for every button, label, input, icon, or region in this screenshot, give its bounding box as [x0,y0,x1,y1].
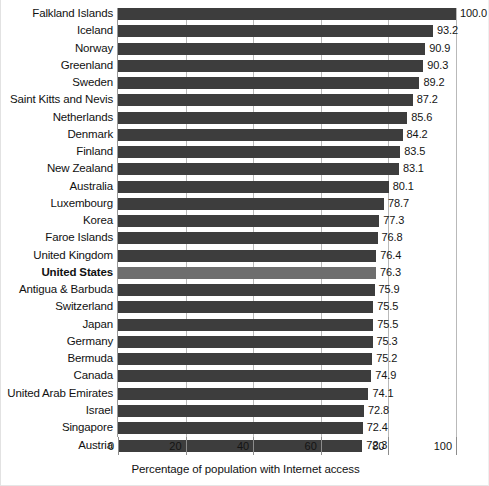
category-label: United Arab Emirates [1,387,113,400]
bar[interactable] [118,94,413,106]
bar[interactable] [118,198,384,210]
bar-value-label: 75.9 [379,282,400,297]
bar[interactable] [118,405,364,417]
bar[interactable] [118,77,419,89]
bar[interactable] [118,129,403,141]
axis-tick-label: 60 [277,440,317,453]
bar-row: 76.8 [118,232,456,244]
bar-row: 89.2 [118,77,456,89]
bar-row: 77.3 [118,215,456,227]
bar-value-label: 75.2 [376,351,397,366]
bar-value-label: 74.1 [372,386,393,401]
bar-value-label: 77.3 [383,213,404,228]
bar-row: 74.1 [118,388,456,400]
bar[interactable] [118,112,407,124]
bar-row: 76.3 [118,267,456,279]
bar-highlighted[interactable] [118,267,376,279]
category-label: Falkland Islands [1,7,113,20]
bar-value-label: 80.1 [393,179,414,194]
bar[interactable] [118,250,376,262]
bar[interactable] [118,163,399,175]
category-label: Germany [1,335,113,348]
axis-tick [456,437,457,455]
category-label: Bermuda [1,352,113,365]
axis-tick [388,437,389,455]
bar-row: 84.2 [118,129,456,141]
bar-value-label: 83.5 [404,144,425,159]
bar-value-label: 78.7 [388,196,409,211]
bar[interactable] [118,422,363,434]
bar-row: 76.4 [118,250,456,262]
bar-row: 75.3 [118,336,456,348]
category-axis-labels: Falkland IslandsIcelandNorwayGreenlandSw… [1,8,113,437]
bar[interactable] [118,60,423,72]
bar[interactable] [118,146,400,158]
bar-row: 75.2 [118,353,456,365]
bar-value-label: 76.8 [382,230,403,245]
bar[interactable] [118,301,373,313]
category-label: Luxembourg [1,197,113,210]
bar[interactable] [118,25,433,37]
bar[interactable] [118,388,368,400]
bar-value-label: 100.0 [460,6,487,21]
category-label: Antigua & Barbuda [1,283,113,296]
plot-area: 100.093.290.990.389.287.285.684.283.583.… [118,8,456,437]
category-label: Canada [1,369,113,382]
axis-tick-label: 40 [209,440,249,453]
category-label: Finland [1,145,113,158]
bar-value-label: 76.4 [380,248,401,263]
bar-row: 100.0 [118,8,456,20]
bar-value-label: 72.4 [367,420,388,435]
category-label: Norway [1,42,113,55]
category-label: United States [1,266,113,279]
bar[interactable] [118,353,372,365]
bar-row: 87.2 [118,94,456,106]
bar-row: 78.7 [118,198,456,210]
bar-series: 100.093.290.990.389.287.285.684.283.583.… [118,8,456,437]
bar-value-label: 72.8 [368,403,389,418]
bar-value-label: 75.5 [377,299,398,314]
bar-value-label: 75.3 [377,334,398,349]
category-label: Greenland [1,59,113,72]
bar-row: 75.5 [118,319,456,331]
axis-tick [186,437,187,455]
bar-value-label: 84.2 [407,127,428,142]
bar-row: 83.5 [118,146,456,158]
category-label: Sweden [1,76,113,89]
bar-row: 80.1 [118,181,456,193]
axis-tick-label: 20 [142,440,182,453]
category-label: Korea [1,214,113,227]
bar[interactable] [118,181,389,193]
bar[interactable] [118,319,373,331]
bar[interactable] [118,336,373,348]
axis-tick [118,437,119,455]
axis-tick-label: 0 [74,440,114,453]
category-label: Iceland [1,24,113,37]
bar-row: 75.9 [118,284,456,296]
category-label: Switzerland [1,300,113,313]
category-label: Denmark [1,128,113,141]
category-label: United Kingdom [1,249,113,262]
bar[interactable] [118,43,425,55]
bar-row: 75.5 [118,301,456,313]
bar-value-label: 90.3 [427,58,448,73]
bar[interactable] [118,8,456,20]
bar-row: 72.4 [118,422,456,434]
bar-value-label: 76.3 [380,265,401,280]
bar-row: 72.8 [118,405,456,417]
x-axis-title: Percentage of population with Internet a… [1,462,489,476]
category-label: Saint Kitts and Nevis [1,93,113,106]
bar-row: 85.6 [118,112,456,124]
bar-value-label: 75.5 [377,317,398,332]
value-axis: 020406080100 [118,437,456,463]
bar-row: 83.1 [118,163,456,175]
bar[interactable] [118,215,379,227]
bar[interactable] [118,232,378,244]
category-label: Australia [1,180,113,193]
bar[interactable] [118,370,371,382]
bar-row: 90.3 [118,60,456,72]
bar[interactable] [118,284,375,296]
bar-value-label: 87.2 [417,92,438,107]
axis-tick-label: 80 [344,440,384,453]
bar-value-label: 83.1 [403,161,424,176]
